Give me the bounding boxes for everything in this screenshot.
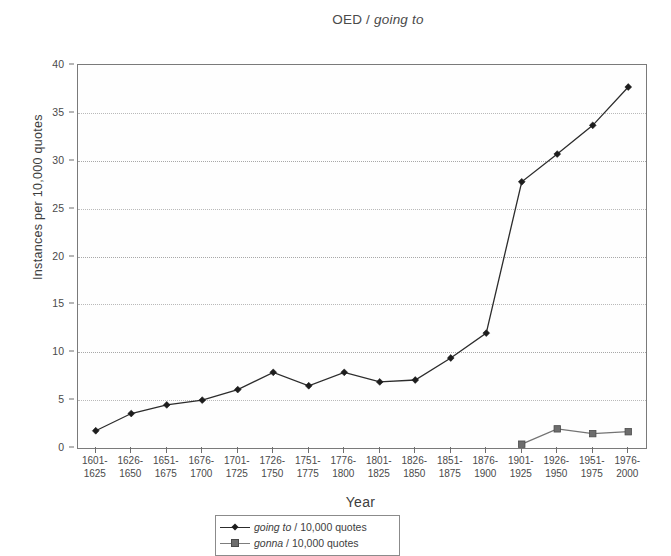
- data-point-marker-diamond: [128, 410, 135, 417]
- y-tick-label: 35: [52, 106, 64, 118]
- y-tick-label: 20: [52, 250, 64, 262]
- chart-title-plain: OED /: [332, 12, 374, 27]
- x-tick-mark: [379, 447, 380, 453]
- x-axis-title: Year: [0, 494, 671, 510]
- x-tick-mark: [95, 447, 96, 453]
- chart-legend: going to / 10,000 quotes gonna / 10,000 …: [215, 515, 400, 556]
- series-line-gonna: [522, 429, 629, 444]
- x-tick-label: 1851-1875: [430, 455, 470, 480]
- legend-item-going-to: going to / 10,000 quotes: [220, 519, 393, 535]
- x-tick-mark: [556, 447, 557, 453]
- x-tick-label: 1751-1775: [288, 455, 328, 480]
- x-tick-mark: [343, 447, 344, 453]
- data-point-marker-diamond: [305, 382, 312, 389]
- y-tick-label: 30: [52, 154, 64, 166]
- chart-title-italic: going to: [374, 12, 424, 27]
- data-point-marker-diamond: [376, 379, 383, 386]
- x-tick-mark: [166, 447, 167, 453]
- y-tick-mark: [69, 303, 74, 304]
- x-tick-mark: [130, 447, 131, 453]
- y-tick-mark: [69, 64, 74, 65]
- x-tick-label: 1651-1675: [146, 455, 186, 480]
- data-point-marker-diamond: [341, 369, 348, 376]
- x-tick-label: 1876-1900: [465, 455, 505, 480]
- legend-marker-square-icon: [220, 537, 250, 549]
- data-point-marker-square: [625, 429, 631, 435]
- y-tick-label: 0: [58, 441, 64, 453]
- x-tick-label: 1726-1750: [252, 455, 292, 480]
- y-tick-mark: [69, 255, 74, 256]
- x-tick-label: 1601-1625: [75, 455, 115, 480]
- x-tick-mark: [201, 447, 202, 453]
- x-tick-label: 1626-1650: [110, 455, 150, 480]
- y-tick-mark: [69, 111, 74, 112]
- x-tick-label: 1826-1850: [394, 455, 434, 480]
- y-tick-mark: [69, 207, 74, 208]
- series-line-going-to: [96, 87, 629, 431]
- x-tick-label: 1776-1800: [323, 455, 363, 480]
- y-tick-label: 40: [52, 58, 64, 70]
- data-point-marker-diamond: [163, 402, 170, 409]
- data-point-marker-square: [590, 430, 596, 436]
- x-tick-label: 1801-1825: [359, 455, 399, 480]
- y-tick-label: 25: [52, 202, 64, 214]
- y-tick-mark: [69, 159, 74, 160]
- data-point-marker-diamond: [92, 427, 99, 434]
- x-tick-mark: [592, 447, 593, 453]
- y-tick-label: 5: [58, 393, 64, 405]
- y-axis-ticks: 0510152025303540: [0, 64, 74, 447]
- x-tick-mark: [414, 447, 415, 453]
- data-point-marker-square: [554, 426, 560, 432]
- x-tick-mark: [627, 447, 628, 453]
- data-point-marker-diamond: [270, 369, 277, 376]
- x-tick-mark: [521, 447, 522, 453]
- data-point-marker-diamond: [412, 377, 419, 384]
- legend-item-gonna: gonna / 10,000 quotes: [220, 535, 393, 551]
- y-tick-label: 10: [52, 345, 64, 357]
- x-tick-mark: [450, 447, 451, 453]
- y-tick-mark: [69, 447, 74, 448]
- x-tick-label: 1951-1975: [572, 455, 612, 480]
- legend-label-gonna: gonna / 10,000 quotes: [254, 537, 359, 549]
- x-tick-mark: [485, 447, 486, 453]
- x-tick-label: 1901-1925: [501, 455, 541, 480]
- data-point-marker-diamond: [199, 397, 206, 404]
- x-tick-label: 1676-1700: [181, 455, 221, 480]
- legend-label-going-to: going to / 10,000 quotes: [254, 521, 367, 533]
- series-layer: [78, 65, 646, 448]
- x-axis-labels: 1601-16251626-16501651-16751676-17001701…: [77, 455, 645, 491]
- x-tick-mark: [308, 447, 309, 453]
- x-tick-label: 1976-2000: [607, 455, 647, 480]
- y-tick-label: 15: [52, 297, 64, 309]
- y-tick-mark: [69, 351, 74, 352]
- x-tick-label: 1926-1950: [536, 455, 576, 480]
- legend-marker-diamond-icon: [220, 521, 250, 533]
- chart-title: OED / going to: [0, 12, 671, 27]
- x-tick-mark: [272, 447, 273, 453]
- x-tick-mark: [237, 447, 238, 453]
- x-tick-label: 1701-1725: [217, 455, 257, 480]
- data-point-marker-diamond: [234, 386, 241, 393]
- plot-area: [77, 64, 647, 449]
- y-tick-mark: [69, 399, 74, 400]
